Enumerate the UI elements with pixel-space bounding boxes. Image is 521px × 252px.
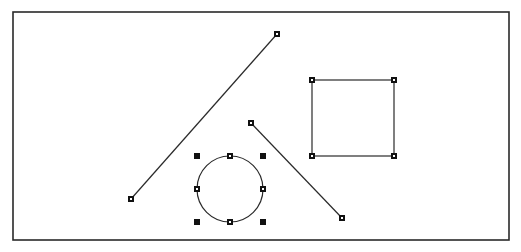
- circle-edge-handle[interactable]: [227, 153, 233, 159]
- circle-edge-handle[interactable]: [260, 186, 266, 192]
- circle-bbox-corner-handle[interactable]: [260, 219, 266, 225]
- rectangle-corner-handle[interactable]: [391, 77, 397, 83]
- line-endpoint-handle[interactable]: [339, 215, 345, 221]
- line-endpoint-handle[interactable]: [274, 31, 280, 37]
- drawing-canvas[interactable]: [0, 0, 521, 252]
- circle-bbox-corner-handle[interactable]: [260, 153, 266, 159]
- drawing-area-frame: [13, 12, 509, 240]
- circle-edge-handle[interactable]: [194, 186, 200, 192]
- rectangle-corner-handle[interactable]: [391, 153, 397, 159]
- rectangle-corner-handle[interactable]: [309, 77, 315, 83]
- circle-bbox-corner-handle[interactable]: [194, 153, 200, 159]
- line-endpoint-handle[interactable]: [128, 196, 134, 202]
- line-endpoint-handle[interactable]: [248, 120, 254, 126]
- rectangle-corner-handle[interactable]: [309, 153, 315, 159]
- circle-edge-handle[interactable]: [227, 219, 233, 225]
- circle-bbox-corner-handle[interactable]: [194, 219, 200, 225]
